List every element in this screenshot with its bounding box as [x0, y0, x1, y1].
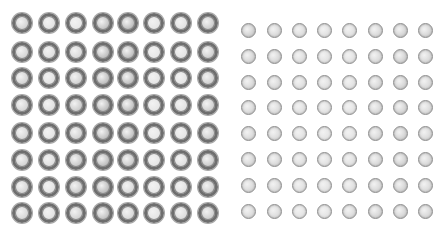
well-circle	[39, 42, 59, 62]
well-circle	[66, 123, 86, 143]
well-circle	[93, 150, 113, 170]
well-circle	[12, 68, 32, 88]
well-circle	[66, 95, 86, 115]
well-circle	[317, 49, 332, 64]
well-circle	[368, 23, 383, 38]
well-circle	[39, 150, 59, 170]
well-circle	[267, 178, 282, 193]
well-circle	[171, 150, 191, 170]
well-circle	[171, 123, 191, 143]
well-circle	[12, 95, 32, 115]
well-circle	[144, 13, 164, 33]
well-circle	[368, 100, 383, 115]
well-circle	[118, 95, 138, 115]
well-circle	[66, 177, 86, 197]
well-circle	[39, 68, 59, 88]
well-circle	[317, 204, 332, 219]
well-circle	[418, 152, 433, 167]
well-circle	[292, 49, 307, 64]
well-circle	[292, 178, 307, 193]
well-circle	[292, 75, 307, 90]
well-circle	[342, 75, 357, 90]
well-circle	[342, 100, 357, 115]
well-circle	[93, 203, 113, 223]
well-circle	[12, 150, 32, 170]
well-circle	[171, 42, 191, 62]
well-circle	[12, 177, 32, 197]
well-circle	[342, 204, 357, 219]
well-circle	[198, 150, 218, 170]
well-circle	[267, 49, 282, 64]
well-circle	[393, 23, 408, 38]
well-circle	[198, 68, 218, 88]
well-circle	[144, 123, 164, 143]
well-circle	[393, 100, 408, 115]
well-circle	[267, 23, 282, 38]
well-circle	[317, 152, 332, 167]
well-circle	[12, 123, 32, 143]
well-circle	[292, 23, 307, 38]
well-circle	[66, 42, 86, 62]
well-circle	[368, 204, 383, 219]
well-circle	[198, 95, 218, 115]
well-circle	[171, 203, 191, 223]
well-circle	[418, 204, 433, 219]
well-circle	[393, 152, 408, 167]
well-circle	[418, 23, 433, 38]
well-circle	[418, 126, 433, 141]
well-circle	[342, 23, 357, 38]
well-circle	[144, 203, 164, 223]
well-circle	[118, 68, 138, 88]
well-circle	[198, 123, 218, 143]
well-circle	[144, 177, 164, 197]
well-circle	[12, 42, 32, 62]
well-circle	[342, 49, 357, 64]
well-circle	[241, 152, 256, 167]
well-circle	[66, 203, 86, 223]
well-circle	[198, 13, 218, 33]
well-circle	[393, 204, 408, 219]
well-circle	[241, 100, 256, 115]
well-circle	[292, 204, 307, 219]
well-circle	[39, 203, 59, 223]
well-circle	[171, 13, 191, 33]
well-circle	[118, 42, 138, 62]
well-circle	[241, 204, 256, 219]
well-circle	[393, 126, 408, 141]
well-circle	[342, 178, 357, 193]
well-circle	[241, 23, 256, 38]
well-circle	[241, 49, 256, 64]
well-circle	[241, 75, 256, 90]
well-circle	[171, 95, 191, 115]
well-circle	[39, 13, 59, 33]
well-circle	[118, 203, 138, 223]
well-circle	[418, 100, 433, 115]
well-circle	[118, 150, 138, 170]
well-circle	[198, 203, 218, 223]
well-circle	[292, 126, 307, 141]
well-circle	[342, 152, 357, 167]
well-circle	[93, 68, 113, 88]
well-circle	[118, 13, 138, 33]
well-circle	[267, 204, 282, 219]
well-circle	[144, 42, 164, 62]
well-circle	[144, 95, 164, 115]
well-circle	[368, 178, 383, 193]
well-circle	[39, 123, 59, 143]
well-circle	[118, 177, 138, 197]
well-circle	[368, 152, 383, 167]
well-circle	[317, 100, 332, 115]
well-circle	[368, 75, 383, 90]
well-circle	[317, 23, 332, 38]
well-circle	[66, 68, 86, 88]
well-circle	[93, 13, 113, 33]
well-circle	[171, 177, 191, 197]
well-circle	[342, 126, 357, 141]
well-circle	[144, 68, 164, 88]
well-circle	[418, 75, 433, 90]
well-circle	[241, 126, 256, 141]
well-circle	[393, 178, 408, 193]
well-circle	[12, 203, 32, 223]
well-circle	[66, 150, 86, 170]
well-circle	[292, 152, 307, 167]
